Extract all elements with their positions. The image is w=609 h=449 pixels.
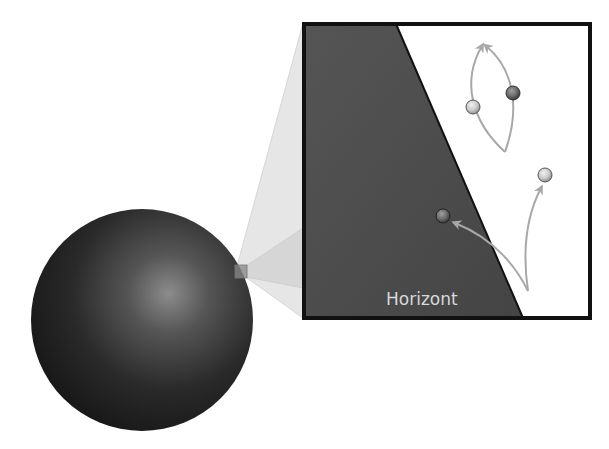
particle-inside-horizon <box>436 209 450 223</box>
black-hole-sphere <box>31 209 253 431</box>
zoom-region-marker <box>235 265 247 278</box>
hawking-radiation-diagram: Horizont <box>0 0 609 449</box>
magnified-horizon-view: Horizont <box>304 24 590 318</box>
particle-escaping <box>538 168 552 182</box>
particle-pair-left <box>466 100 480 114</box>
particle-pair-right <box>506 86 520 100</box>
horizon-label: Horizont <box>386 289 458 309</box>
